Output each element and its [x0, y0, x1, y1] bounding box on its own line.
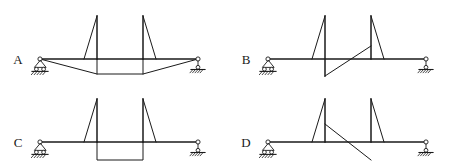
roller-circle: [270, 150, 274, 154]
support-node-circle: [424, 57, 428, 61]
roller-circle: [424, 148, 428, 152]
support-node-circle: [196, 140, 200, 144]
support-node-circle: [424, 140, 428, 144]
beam-diagram-figure: ABCD: [0, 0, 456, 167]
support-node-circle: [196, 57, 200, 61]
panel-label-d: D: [241, 135, 250, 150]
panel-label-a: A: [13, 52, 23, 67]
roller-circle: [42, 67, 46, 71]
roller-circle: [196, 148, 200, 152]
figure-container: ABCD: [0, 0, 456, 167]
roller-circle: [263, 67, 267, 71]
roller-circle: [270, 67, 274, 71]
panel-label-b: B: [242, 52, 251, 67]
roller-circle: [42, 150, 46, 154]
roller-circle: [263, 150, 267, 154]
panel-label-c: C: [14, 135, 23, 150]
roller-circle: [35, 67, 39, 71]
roller-circle: [35, 150, 39, 154]
roller-circle: [424, 65, 428, 69]
roller-circle: [196, 65, 200, 69]
